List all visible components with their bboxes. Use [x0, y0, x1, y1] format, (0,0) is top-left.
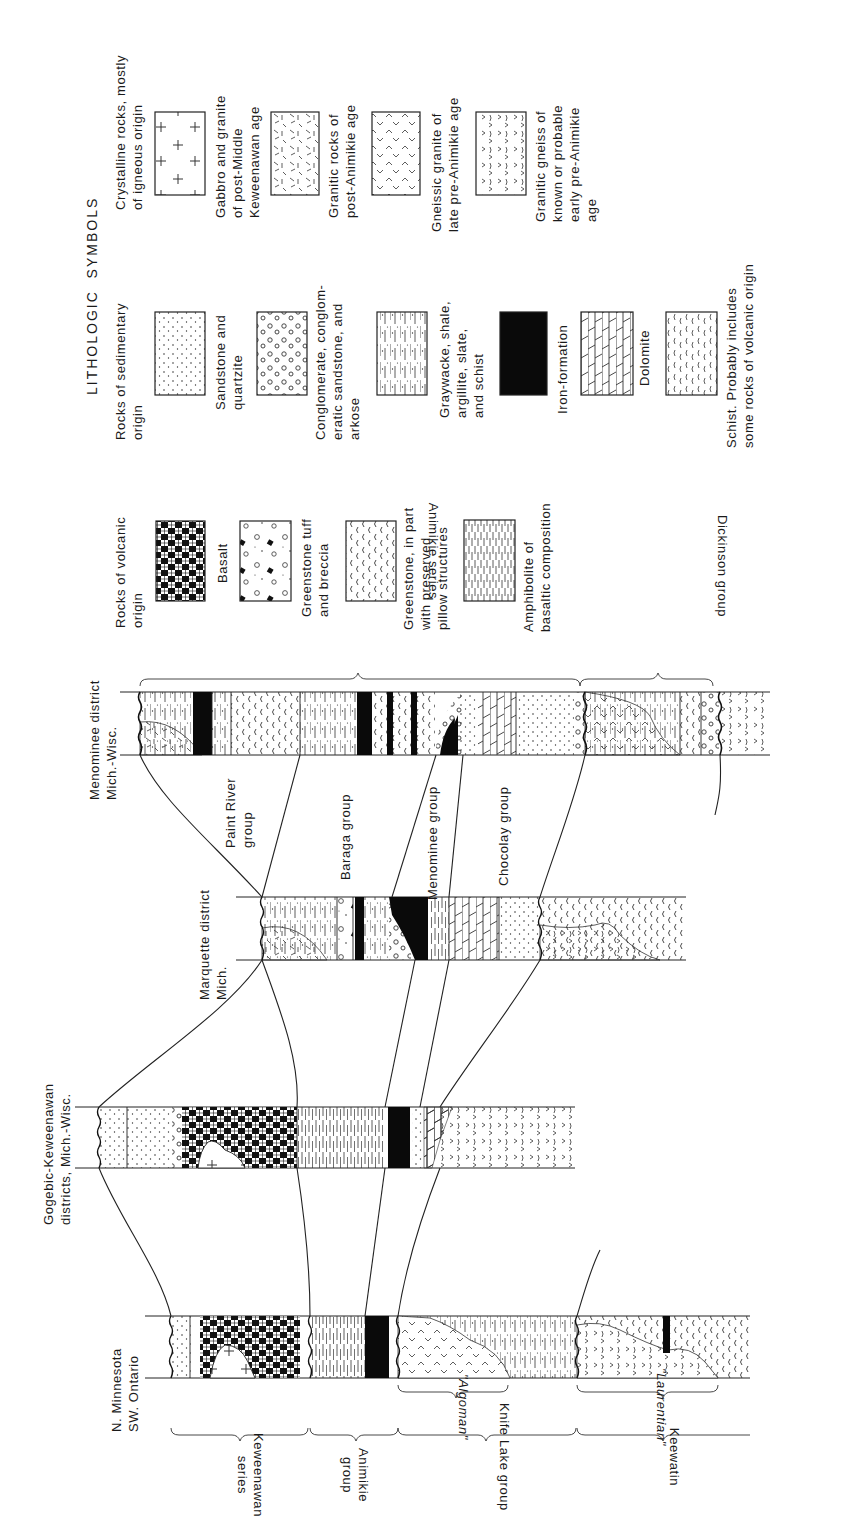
- correlation-lines: [60, 755, 721, 1316]
- legend-group-volcanic-heading: Rocks of volcanic origin: [112, 517, 146, 628]
- legend-label-greenstone-tuff: Greenstone tuff and breccia: [298, 519, 332, 617]
- legend-label-gabbro-granite: Gabbro and granite of post-Middle Keween…: [212, 95, 263, 218]
- legend-title: LITHOLOGIC SYMBOLS: [84, 197, 101, 395]
- legend-label-iron-formation: Iron-formation: [554, 325, 571, 414]
- menominee-column: [120, 673, 770, 755]
- bracket-label-algoman: "Algoman": [453, 1357, 471, 1457]
- column-label-minnesota: N. Minnesota SW. Ontario: [108, 1348, 142, 1432]
- legend-label-dolomite: Dolomite: [636, 330, 653, 386]
- bracket-label-animikie-series: Animikie series: [423, 481, 441, 621]
- legend-label-conglomerate: Conglomerate, conglom- eratic sandstone,…: [312, 284, 363, 440]
- bracket-label-animikie-group: Animikie group: [337, 1430, 371, 1520]
- legend-label-amphibolite: Amphibolite of basaltic composition: [520, 503, 554, 632]
- column-label-gogebic: Gogebic-Keweenawan districts, Mich.-Wisc…: [40, 1083, 74, 1225]
- legend-label-schist: Schist. Probably includes some rocks of …: [723, 264, 757, 448]
- legend-label-basalt: Basalt: [214, 543, 231, 583]
- column-label-marquette: Marquette district Mich.: [196, 889, 230, 1000]
- column-label-menominee: Menominee district Mich.-Wisc.: [86, 680, 120, 800]
- group-label-paint-river: Paint River group: [222, 778, 256, 848]
- legend-label-gneissic-granite: Gneissic granite of late pre-Animikie ag…: [428, 97, 462, 232]
- legend-label-graywacke: Graywacke, shale, argillite, slate, and …: [436, 301, 487, 418]
- group-label-menominee: Menominee group: [424, 786, 441, 900]
- bracket-label-dickinson-group: Dickinson group: [712, 501, 730, 631]
- gogebic-column: [75, 1107, 575, 1168]
- group-label-chocolay: Chocolay group: [495, 787, 512, 886]
- legend-group-sedimentary-heading: Rocks of sedimentary origin: [112, 303, 146, 440]
- legend-label-sandstone: Sandstone and quartzite: [212, 315, 246, 410]
- legend-group-crystalline-heading: Crystalline rocks, mostly of igneous ori…: [112, 55, 146, 210]
- legend-label-granitic-gneiss: Granitic gneiss of known or probable ear…: [532, 105, 600, 222]
- bracket-label-knife-lake-group: Knife Lake group: [494, 1392, 512, 1520]
- bracket-label-keweenawan-series: Keweenawan series: [232, 1420, 266, 1520]
- bracket-label-keewatin: Keewatin: [664, 1407, 682, 1507]
- marquette-column: [236, 897, 686, 960]
- legend-label-granitic-post-animikie: Granitic rocks of post-Animikie age: [325, 104, 359, 218]
- group-label-baraga: Baraga group: [337, 794, 354, 880]
